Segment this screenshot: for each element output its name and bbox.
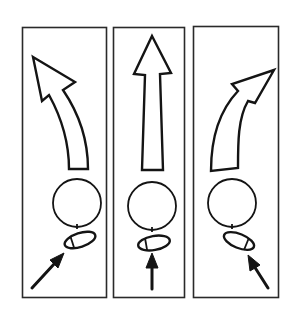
ball-icon xyxy=(128,182,176,230)
curve-right-arrow-icon xyxy=(211,70,274,171)
kick-direction-arrow-icon xyxy=(146,253,158,289)
panel-center xyxy=(114,28,185,298)
foot-icon xyxy=(222,229,257,254)
kick-direction-arrow-icon xyxy=(32,253,64,288)
ball-icon xyxy=(53,179,101,227)
straight-up-arrow-icon xyxy=(134,36,171,170)
foot-icon xyxy=(137,233,171,252)
foot-icon xyxy=(63,228,98,251)
ball-trajectory-diagram xyxy=(0,0,297,315)
panel-left xyxy=(23,28,107,298)
kick-direction-arrow-icon xyxy=(248,255,268,288)
panel-right xyxy=(194,27,279,298)
curve-left-arrow-icon xyxy=(33,57,88,169)
ball-icon xyxy=(208,179,256,227)
